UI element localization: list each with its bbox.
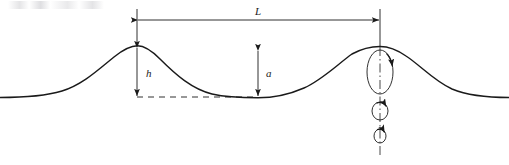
wavelength-label: L [254,5,261,17]
wavelength-dimension: L [137,5,380,47]
water-surface-wave [0,46,509,98]
wave-diagram-figure: L h a [0,0,509,165]
wave-height-label: h [146,67,152,79]
wave-diagram-canvas: L h a [0,0,509,165]
wave-amplitude-label: a [266,67,272,79]
orbital-motion-group [367,47,393,157]
wave-height-dimension: h [137,48,152,96]
wave-amplitude-dimension: a [258,51,272,96]
